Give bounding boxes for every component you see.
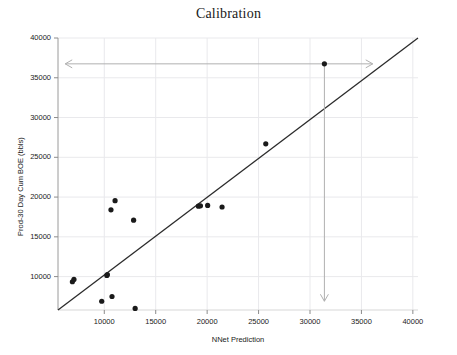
data-point xyxy=(219,204,224,209)
data-point xyxy=(112,198,117,203)
reference-line xyxy=(58,38,418,310)
data-point xyxy=(71,277,76,282)
data-point xyxy=(131,218,136,223)
data-point xyxy=(105,272,110,277)
data-points xyxy=(70,61,327,311)
annotation-arrows xyxy=(65,60,373,301)
data-point xyxy=(99,299,104,304)
data-point xyxy=(198,203,203,208)
data-point xyxy=(322,61,327,66)
one-to-one-reference-line xyxy=(58,38,418,310)
data-point xyxy=(108,207,113,212)
data-point xyxy=(205,203,210,208)
plot-canvas xyxy=(0,0,457,355)
calibration-scatter-chart: Calibration Prod-30 Day Cum BOE (bbls) N… xyxy=(0,0,457,355)
data-point xyxy=(109,294,114,299)
data-point xyxy=(133,306,138,311)
data-point xyxy=(263,141,268,146)
